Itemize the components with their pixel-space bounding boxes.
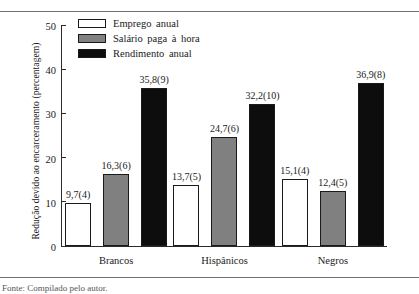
bar-item[interactable]: 15,1(4) [282,25,308,246]
legend-item[interactable]: Salário paga à hora [78,31,200,46]
bar-rect[interactable] [65,203,91,246]
legend-swatch-icon [78,19,106,28]
y-tick-label: 20 [46,154,63,165]
chart-legend: Emprego anualSalário paga à horaRendimen… [78,16,200,61]
bar-value-label: 32,2(10) [245,90,279,101]
bar-rect[interactable] [103,174,129,246]
y-tick-40: 40 [46,60,63,78]
bar-value-label: 13,7(5) [172,171,201,182]
legend-label: Rendimento anual [113,48,192,59]
x-axis-line [61,246,387,247]
y-axis-title: Redução devido ao encarceramento (percen… [31,41,41,241]
bar-rect[interactable] [173,185,199,246]
y-tick-label: 0 [51,242,62,253]
figure-caption: Fonte: Compilado pelo autor. [2,283,417,294]
figure-bottom-rule [0,277,419,278]
y-tick-10: 10 [46,193,63,211]
x-category-label: Hispânicos [201,255,248,266]
bar-rect[interactable] [141,88,167,246]
bar-item[interactable]: 36,9(8) [358,25,384,246]
bar-rect[interactable] [249,104,275,246]
bar-item[interactable]: 32,2(10) [249,25,275,246]
legend-swatch-icon [78,34,106,43]
bar-rect[interactable] [282,179,308,246]
bar-rect[interactable] [320,191,346,246]
figure-top-rule [0,11,419,12]
y-tick-50: 50 [46,16,63,34]
bar-rect[interactable] [211,137,237,246]
legend-item[interactable]: Rendimento anual [78,46,200,61]
y-tick-20: 20 [46,149,63,167]
bar-value-label: 12,4(5) [318,177,347,188]
x-category-label: Brancos [99,255,133,266]
bar-item[interactable]: 12,4(5) [320,25,346,246]
bar-value-label: 35,8(9) [140,74,169,85]
bar-group-negros: 15,1(4)12,4(5)36,9(8) [279,25,387,246]
legend-item[interactable]: Emprego anual [78,16,200,31]
y-tick-label: 40 [46,65,63,76]
y-tick-30: 30 [46,104,63,122]
bar-value-label: 9,7(4) [66,189,90,200]
y-tick-label: 50 [46,21,63,32]
legend-swatch-icon [78,49,106,58]
y-tick-label: 30 [46,109,63,120]
bar-value-label: 24,7(6) [210,123,239,134]
bar-item[interactable]: 24,7(6) [211,25,237,246]
legend-label: Salário paga à hora [113,33,200,44]
legend-label: Emprego anual [113,18,179,29]
bar-value-label: 36,9(8) [356,69,385,80]
bar-value-label: 16,3(6) [102,160,131,171]
y-tick-label: 10 [46,198,63,209]
x-category-label: Negros [318,255,348,266]
bar-value-label: 15,1(4) [280,165,309,176]
bar-rect[interactable] [358,83,384,246]
figure-container: Redução devido ao encarceramento (percen… [0,0,419,294]
y-tick-0: 0 [51,237,62,255]
